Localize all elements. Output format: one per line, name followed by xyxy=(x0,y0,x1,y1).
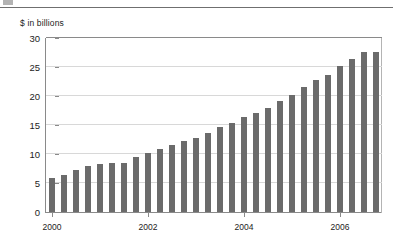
bar xyxy=(349,59,355,212)
x-tick-label-2006: 2006 xyxy=(331,222,350,232)
bar xyxy=(301,87,307,212)
figure-chart: $ in billions 051015202530 2000200220042… xyxy=(0,0,393,244)
gridline-25 xyxy=(46,66,382,67)
bar xyxy=(181,141,187,212)
y-tick-label-15: 15 xyxy=(18,120,40,131)
figure-top-rule xyxy=(0,7,393,8)
bar xyxy=(277,101,283,212)
bar xyxy=(265,108,271,212)
x-tick-label-2000: 2000 xyxy=(43,222,62,232)
x-tick-label-2004: 2004 xyxy=(235,222,254,232)
bar xyxy=(241,117,247,212)
bar xyxy=(361,52,367,212)
y-tick-label-20: 20 xyxy=(18,91,40,102)
bar xyxy=(193,138,199,212)
bar xyxy=(109,163,115,212)
y-tick-mark-5 xyxy=(55,183,59,184)
bar xyxy=(253,113,259,212)
x-tick-label-2002: 2002 xyxy=(139,222,158,232)
y-tick-label-25: 25 xyxy=(18,62,40,73)
bar xyxy=(373,52,379,212)
bar xyxy=(325,75,331,212)
bar xyxy=(85,166,91,212)
y-tick-mark-20 xyxy=(55,96,59,97)
bar xyxy=(313,80,319,212)
bar xyxy=(121,163,127,212)
bar xyxy=(229,123,235,212)
bar xyxy=(61,175,67,212)
x-tick-mark-2004 xyxy=(244,213,245,217)
y-tick-label-5: 5 xyxy=(18,178,40,189)
bar xyxy=(73,170,79,212)
bar xyxy=(145,153,151,212)
bar xyxy=(289,95,295,212)
gridline-10 xyxy=(46,153,382,154)
x-tick-mark-2002 xyxy=(148,213,149,217)
bar xyxy=(205,133,211,212)
y-tick-mark-10 xyxy=(55,154,59,155)
bar xyxy=(169,145,175,212)
plot-area xyxy=(46,38,382,212)
y-tick-label-10: 10 xyxy=(18,149,40,160)
bar xyxy=(133,157,139,212)
bar xyxy=(97,164,103,212)
bar xyxy=(337,66,343,212)
x-tick-mark-2006 xyxy=(340,213,341,217)
bar xyxy=(157,149,163,212)
caption-crop-mark xyxy=(3,0,13,5)
x-tick-mark-2000 xyxy=(52,213,53,217)
bar xyxy=(217,127,223,212)
y-tick-mark-15 xyxy=(55,125,59,126)
y-tick-mark-30 xyxy=(55,38,59,39)
gridline-30 xyxy=(46,37,382,38)
x-axis-spine xyxy=(45,212,382,213)
gridline-20 xyxy=(46,95,382,96)
y-tick-label-30: 30 xyxy=(18,33,40,44)
y-axis-ticks: 051015202530 xyxy=(14,0,40,244)
y-tick-mark-25 xyxy=(55,67,59,68)
y-tick-label-0: 0 xyxy=(18,207,40,218)
y-tick-mark-0 xyxy=(55,212,59,213)
gridline-15 xyxy=(46,124,382,125)
